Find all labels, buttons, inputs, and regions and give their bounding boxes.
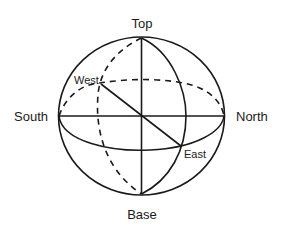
label-south: South: [14, 109, 48, 124]
sphere-diagram: Top Base South North West East: [0, 0, 284, 231]
label-top: Top: [132, 16, 153, 31]
label-north: North: [236, 109, 268, 124]
label-east: East: [184, 148, 206, 160]
label-base: Base: [127, 207, 157, 222]
label-west: West: [74, 74, 99, 86]
